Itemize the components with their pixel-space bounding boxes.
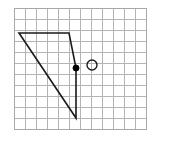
- geometry-figure: [0, 0, 174, 149]
- filled-point-marker: [73, 65, 79, 71]
- figure-container: [0, 0, 174, 149]
